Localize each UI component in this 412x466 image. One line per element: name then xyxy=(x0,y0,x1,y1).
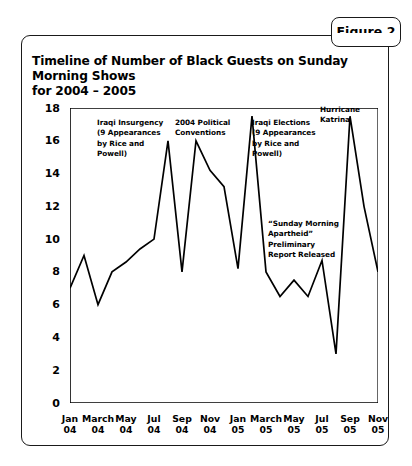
annotation-hurricane-katrina: Hurricane Katrina xyxy=(320,105,376,126)
y-axis-tick-label: 10 xyxy=(34,234,60,245)
y-axis-tick-label: 2 xyxy=(34,365,60,376)
x-axis-tick-label: Nov05 xyxy=(358,414,398,436)
y-axis-tick-label: 12 xyxy=(34,201,60,212)
annotation-sunday-morning-apartheid: “Sunday Morning Apartheid” Preliminary R… xyxy=(268,219,354,260)
annotation-political-conventions: 2004 Political Conventions xyxy=(175,118,243,139)
figure-page: Figure 2 Timeline of Number of Black Gue… xyxy=(0,0,412,466)
figure-number-tab: Figure 2 xyxy=(331,17,401,47)
chart-title-line-2: for 2004 – 2005 xyxy=(32,84,362,99)
y-axis-tick-label: 8 xyxy=(34,266,60,277)
annotation-iraqi-insurgency: Iraqi Insurgency (9 Appearances by Rice … xyxy=(97,118,169,159)
y-axis-tick-label: 4 xyxy=(34,332,60,343)
annotation-iraqi-elections: Iraqi Elections (9 Appearances by Rice a… xyxy=(252,118,322,159)
chart-title-line-1: Timeline of Number of Black Guests on Su… xyxy=(32,54,362,84)
y-axis-tick-label: 0 xyxy=(34,398,60,409)
chart-title: Timeline of Number of Black Guests on Su… xyxy=(32,54,362,99)
y-axis-tick-label: 14 xyxy=(34,168,60,179)
x-tick-year: 05 xyxy=(358,425,398,436)
y-axis-tick-label: 6 xyxy=(34,299,60,310)
y-axis-tick-label: 18 xyxy=(34,103,60,114)
y-axis-tick-label: 16 xyxy=(34,135,60,146)
tab-notch xyxy=(333,33,397,39)
